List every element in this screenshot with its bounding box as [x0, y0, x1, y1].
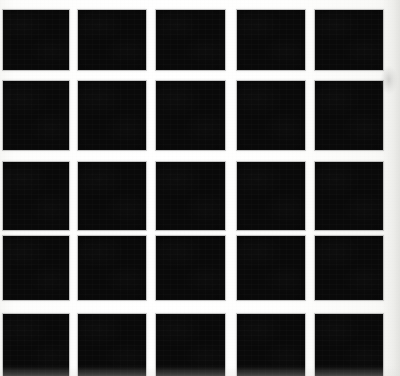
grid-square-r5c1: [3, 314, 69, 376]
grid-square-r4c3: [156, 236, 225, 300]
hermann-grid-figure: [0, 0, 400, 376]
grid-square-r5c2: [78, 314, 146, 376]
grid-square-r1c4: [237, 10, 305, 70]
grid-square-r5c4: [237, 314, 305, 376]
grid-square-r1c1: [3, 10, 69, 70]
grid-square-r3c4: [237, 162, 305, 230]
grid-square-r4c4: [237, 236, 305, 300]
grid-square-r3c2: [78, 162, 146, 230]
grid-square-r2c2: [78, 81, 146, 150]
grid-square-r4c2: [78, 236, 146, 300]
grid-square-r1c2: [78, 10, 146, 70]
grid-square-r2c1: [3, 81, 69, 150]
grid-square-r1c3: [156, 10, 225, 70]
grid-square-r2c3: [156, 81, 225, 150]
grid-square-r1c5: [315, 10, 383, 70]
grid-square-r3c5: [315, 162, 383, 230]
grid-square-r4c1: [3, 236, 69, 300]
grid-square-r2c5: [315, 81, 383, 150]
grid-square-r5c5: [315, 314, 383, 376]
grid-square-r2c4: [237, 81, 305, 150]
grid-square-r3c3: [156, 162, 225, 230]
black-square-grid: [0, 0, 400, 376]
grid-square-r5c3: [156, 314, 225, 376]
grid-square-r3c1: [3, 162, 69, 230]
grid-square-r4c5: [315, 236, 383, 300]
